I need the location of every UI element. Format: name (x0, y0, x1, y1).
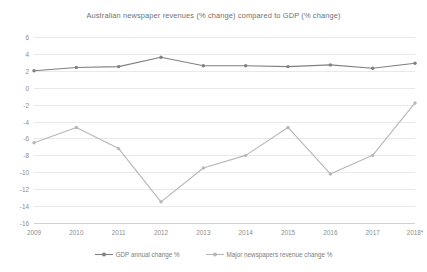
x-axis-tick-label: 2014 (239, 229, 253, 236)
x-axis-tick-label: 2012 (154, 229, 168, 236)
data-point (32, 141, 35, 144)
plot-area: 6420-2-4-6-8-10-12-14-16 200920102011201… (34, 37, 415, 223)
data-point (202, 64, 205, 67)
data-point (413, 101, 416, 104)
y-axis-tick-label: 0 (25, 84, 29, 91)
y-axis-tick-label: -12 (20, 186, 29, 193)
chart-legend: GDP annual change %Major newspapers reve… (0, 251, 427, 258)
data-point (117, 65, 120, 68)
series-line (34, 103, 415, 202)
data-point (159, 56, 162, 59)
y-axis-tick-label: -6 (23, 135, 29, 142)
data-point (329, 172, 332, 175)
legend-item[interactable]: Major newspapers revenue change % (206, 251, 333, 258)
y-axis-tick-label: -14 (20, 203, 29, 210)
y-axis-tick-label: 4 (25, 50, 29, 57)
y-axis-tick-label: 2 (25, 67, 29, 74)
y-axis-tick-label: -16 (20, 220, 29, 227)
x-axis-tick-label: 2011 (112, 229, 126, 236)
series-major-newspapers-revenue-change (32, 101, 416, 203)
y-axis-tick-label: -10 (20, 169, 29, 176)
x-axis-tick-label: 2016 (323, 229, 337, 236)
data-point (32, 69, 35, 72)
legend-marker-icon (95, 251, 113, 258)
chart-title: Australian newspaper revenues (% change)… (0, 11, 427, 20)
x-axis-tick-label: 2010 (69, 229, 83, 236)
x-axis-tick-label: 2015 (281, 229, 295, 236)
series-gdp-annual-change (32, 56, 416, 73)
y-axis-tick-label: -2 (23, 101, 29, 108)
data-point (286, 126, 289, 129)
x-axis-tick-label: 2017 (366, 229, 380, 236)
y-axis-tick-label: -4 (23, 118, 29, 125)
gridline (34, 223, 415, 224)
data-point (75, 126, 78, 129)
chart-container: Australian newspaper revenues (% change)… (0, 0, 427, 272)
data-point (244, 64, 247, 67)
legend-item[interactable]: GDP annual change % (95, 251, 180, 258)
x-axis-tick-label: 2009 (27, 229, 41, 236)
data-point (202, 166, 205, 169)
data-point (371, 67, 374, 70)
data-point (413, 62, 416, 65)
legend-marker-icon (206, 251, 224, 258)
y-axis-tick-label: 6 (25, 34, 29, 41)
data-point (244, 154, 247, 157)
x-axis-tick-label: 2018* (407, 229, 424, 236)
legend-label: Major newspapers revenue change % (227, 251, 333, 258)
data-point (329, 63, 332, 66)
data-point (159, 200, 162, 203)
data-point (371, 154, 374, 157)
legend-label: GDP annual change % (116, 251, 180, 258)
series-layer (34, 37, 415, 223)
data-point (117, 147, 120, 150)
series-line (34, 57, 415, 71)
x-axis-tick-label: 2013 (196, 229, 210, 236)
data-point (286, 65, 289, 68)
data-point (75, 66, 78, 69)
y-axis-tick-label: -8 (23, 152, 29, 159)
